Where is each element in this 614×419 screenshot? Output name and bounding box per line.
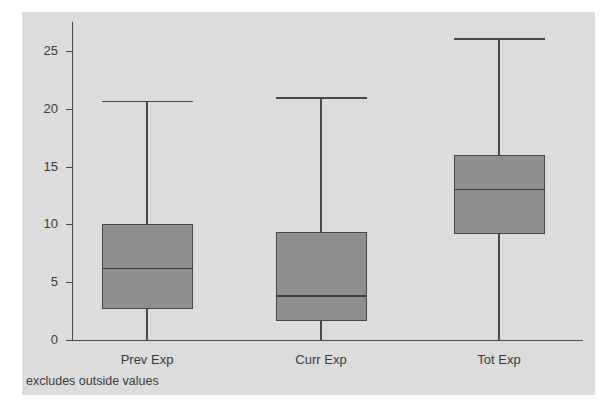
x-axis-label-tot-exp: Tot Exp <box>439 352 559 367</box>
chart-page: 0510152025 Prev ExpCurr ExpTot Exp exclu… <box>0 0 614 419</box>
median-line <box>454 189 545 191</box>
lower-whisker-cap <box>454 340 545 341</box>
lower-whisker-stem <box>498 234 499 340</box>
boxplot-tot-exp <box>22 12 595 395</box>
x-axis-label-prev-exp: Prev Exp <box>87 352 207 367</box>
x-axis-label-curr-exp: Curr Exp <box>261 352 381 367</box>
chart-note: excludes outside values <box>26 374 159 389</box>
chart-panel: 0510152025 Prev ExpCurr ExpTot Exp exclu… <box>22 12 595 395</box>
box-iqr <box>454 155 545 234</box>
upper-whisker-stem <box>498 38 499 155</box>
upper-whisker-cap <box>454 38 545 39</box>
